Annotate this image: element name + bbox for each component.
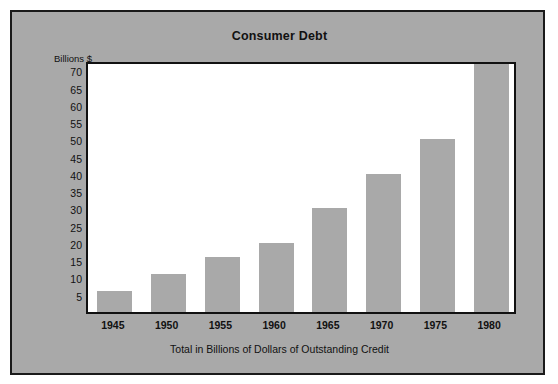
bar bbox=[97, 291, 132, 312]
y-tick-label: 45 bbox=[18, 153, 82, 164]
x-axis-tick-labels: 19451950195519601965197019751980 bbox=[86, 319, 516, 337]
x-tick-label: 1945 bbox=[101, 319, 124, 331]
bar bbox=[259, 243, 294, 312]
y-tick-label: 20 bbox=[18, 240, 82, 251]
y-tick-label: 10 bbox=[18, 274, 82, 285]
chart-title: Consumer Debt bbox=[12, 29, 547, 43]
bar bbox=[205, 257, 240, 312]
y-tick-label: 15 bbox=[18, 257, 82, 268]
bar bbox=[474, 62, 509, 312]
y-tick-label: 25 bbox=[18, 222, 82, 233]
chart-panel: Consumer Debt Billions $ 510152025303540… bbox=[10, 10, 545, 375]
bar bbox=[312, 208, 347, 312]
x-tick-label: 1960 bbox=[262, 319, 285, 331]
bar bbox=[151, 274, 186, 312]
bar bbox=[420, 139, 455, 312]
y-tick-label: 5 bbox=[18, 291, 82, 302]
chart-figure: Consumer Debt Billions $ 510152025303540… bbox=[0, 0, 558, 384]
y-axis-tick-labels: 510152025303540455055606570 bbox=[18, 62, 82, 314]
x-tick-label: 1965 bbox=[316, 319, 339, 331]
y-tick-label: 70 bbox=[18, 67, 82, 78]
y-tick-label: 65 bbox=[18, 84, 82, 95]
bar bbox=[366, 174, 401, 312]
x-tick-label: 1970 bbox=[370, 319, 393, 331]
y-tick-label: 50 bbox=[18, 136, 82, 147]
y-tick-label: 60 bbox=[18, 102, 82, 113]
bar-series bbox=[88, 64, 514, 312]
x-axis-label: Total in Billions of Dollars of Outstand… bbox=[12, 343, 547, 355]
y-tick-label: 30 bbox=[18, 205, 82, 216]
y-tick-label: 40 bbox=[18, 171, 82, 182]
x-tick-label: 1955 bbox=[209, 319, 232, 331]
plot-area bbox=[86, 62, 516, 314]
x-tick-label: 1980 bbox=[477, 319, 500, 331]
y-tick-label: 35 bbox=[18, 188, 82, 199]
y-tick-label: 55 bbox=[18, 119, 82, 130]
x-tick-label: 1950 bbox=[155, 319, 178, 331]
x-tick-label: 1975 bbox=[424, 319, 447, 331]
